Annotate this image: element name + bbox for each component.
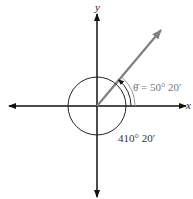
reference-angle-label: θ̄ = 50° 20′ <box>133 82 182 93</box>
reference-angle-arc-inner <box>119 80 131 106</box>
y-axis-label: y <box>95 2 100 13</box>
angle-label: 410° 20′ <box>118 133 155 144</box>
angle-diagram <box>0 0 193 199</box>
x-axis-label: x <box>186 100 191 111</box>
